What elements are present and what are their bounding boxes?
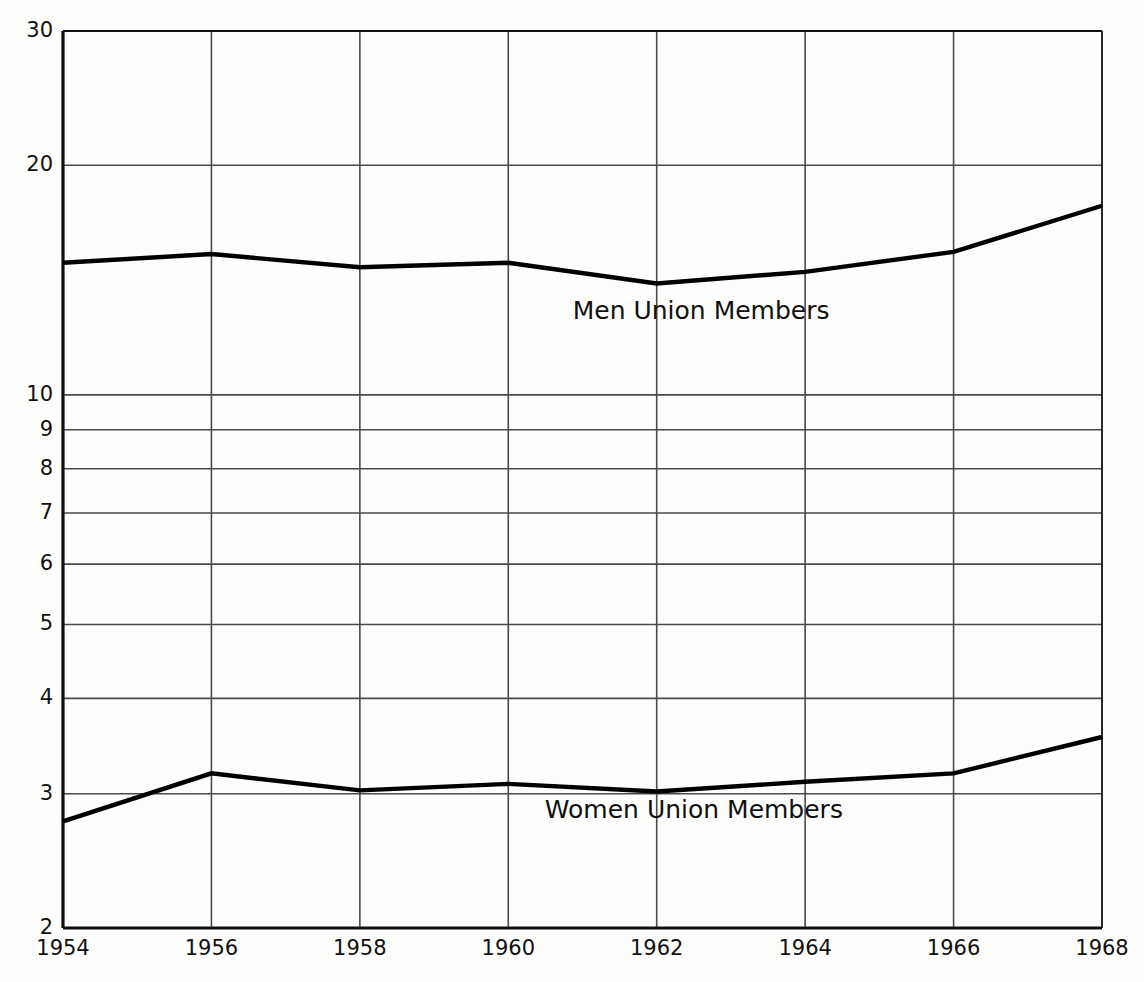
chart-container: 30201098765432 1954195619581960196219641… <box>0 0 1144 982</box>
x-tick-label-1956: 1956 <box>166 938 256 959</box>
y-tick-label-7: 7 <box>40 502 53 523</box>
series-line-men <box>63 206 1102 284</box>
x-tick-label-1968: 1968 <box>1057 938 1144 959</box>
y-tick-label-8: 8 <box>40 458 53 479</box>
y-tick-label-20: 20 <box>26 154 53 175</box>
y-tick-label-9: 9 <box>40 419 53 440</box>
x-tick-label-1962: 1962 <box>612 938 702 959</box>
horizontal-gridlines <box>63 165 1102 793</box>
y-tick-label-6: 6 <box>40 553 53 574</box>
x-tick-label-1964: 1964 <box>760 938 850 959</box>
y-tick-label-4: 4 <box>40 687 53 708</box>
y-tick-label-30: 30 <box>26 20 53 41</box>
x-tick-label-1954: 1954 <box>18 938 108 959</box>
x-tick-label-1960: 1960 <box>463 938 553 959</box>
annotation-women-union-members: Women Union Members <box>545 797 843 822</box>
y-tick-label-10: 10 <box>26 384 53 405</box>
plot-area <box>0 0 1144 982</box>
y-tick-label-3: 3 <box>40 783 53 804</box>
x-tick-label-1958: 1958 <box>315 938 405 959</box>
y-tick-label-5: 5 <box>40 613 53 634</box>
annotation-men-union-members: Men Union Members <box>573 298 830 323</box>
y-tick-label-2: 2 <box>40 917 53 938</box>
x-tick-label-1966: 1966 <box>909 938 999 959</box>
